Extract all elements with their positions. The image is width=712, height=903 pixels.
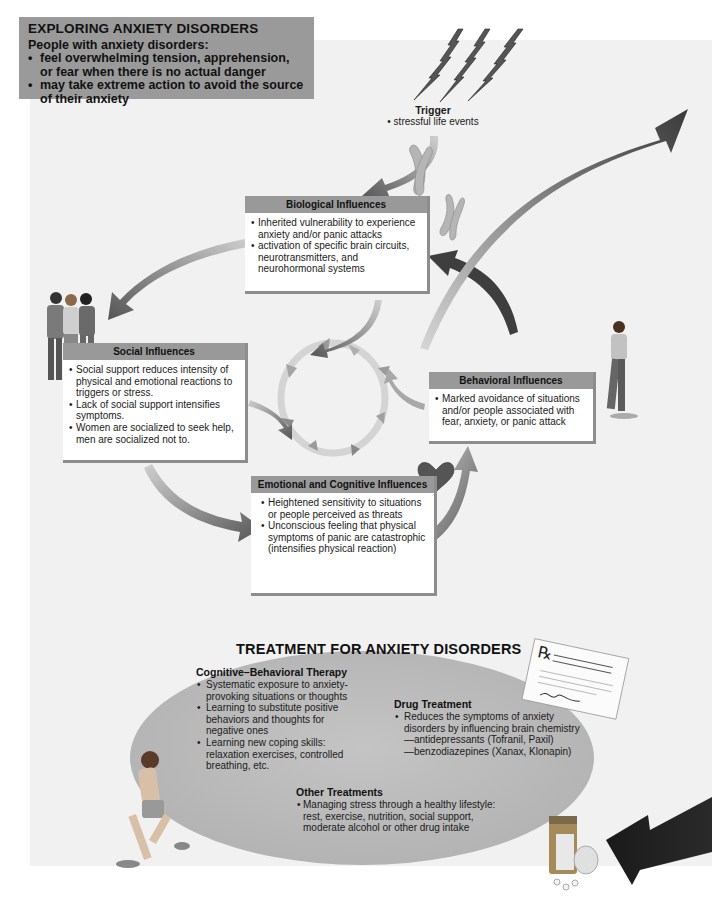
cbt-item: Learning to substitute positive behavior… <box>196 702 364 737</box>
lightning-bolt-icon <box>414 29 523 102</box>
emotional-item: Unconscious feeling that physical sympto… <box>261 520 428 555</box>
emotional-cognitive-influences-box: Emotional and Cognitive Influences Heigh… <box>251 476 437 596</box>
treatment-title: TREATMENT FOR ANXIETY DISORDERS <box>236 641 521 657</box>
pill-bottle-icon <box>549 816 598 890</box>
intro-subtitle: People with anxiety disorders: <box>28 38 305 52</box>
intro-list: feel overwhelming tension, apprehension,… <box>28 52 305 106</box>
cbt-item: Systematic exposure to anxiety-provoking… <box>196 679 364 702</box>
behavioral-influences-box: Behavioral Influences Marked avoidance o… <box>429 372 596 444</box>
emotional-cognitive-influences-title: Emotional and Cognitive Influences <box>251 476 434 493</box>
social-influences-box: Social Influences Social support reduces… <box>63 343 248 463</box>
big-outgoing-arrow <box>420 109 688 350</box>
social-influences-title: Social Influences <box>63 343 245 360</box>
cbt-title: Cognitive–Behavioral Therapy <box>196 666 364 679</box>
drug-treatment-title: Drug Treatment <box>394 698 594 711</box>
intro-item: feel overwhelming tension, apprehension,… <box>28 52 305 79</box>
walking-woman-icon <box>607 321 638 419</box>
other-treatments-section: Other Treatments Managing stress through… <box>296 786 516 834</box>
drug-item: Reduces the symptoms of anxiety disorder… <box>394 711 594 734</box>
drug-subitem: —benzodiazepines (Xanax, Klonapin) <box>394 746 594 758</box>
behavioral-item: Marked avoidance of situations and/or pe… <box>435 393 587 428</box>
social-item: Social support reduces intensity of phys… <box>69 364 239 399</box>
biological-influences-box: Biological Influences Inherited vulnerab… <box>245 196 430 294</box>
trigger-title: Trigger <box>363 104 503 116</box>
other-treatments-title: Other Treatments <box>296 786 516 799</box>
biological-to-social-arrow <box>108 238 252 320</box>
biological-influences-title: Biological Influences <box>245 196 427 213</box>
social-item: Women are socialized to seek help, men a… <box>69 422 239 445</box>
biological-item: activation of specific brain circuits, n… <box>251 240 421 275</box>
other-item: Managing stress through a healthy lifest… <box>296 799 516 834</box>
treatment-incoming-arrow <box>606 797 712 885</box>
intro-item: may take extreme action to avoid the sou… <box>28 79 305 106</box>
social-item: Lack of social support intensifies sympt… <box>69 399 239 422</box>
biological-item: Inherited vulnerability to experience an… <box>251 217 421 240</box>
trigger-label: Trigger • stressful life events <box>363 104 503 128</box>
social-to-emotional-arrow <box>144 464 262 542</box>
behavioral-influences-title: Behavioral Influences <box>429 372 593 389</box>
cbt-section: Cognitive–Behavioral Therapy Systematic … <box>196 666 364 772</box>
intro-title: EXPLORING ANXIETY DISORDERS <box>28 21 305 36</box>
drug-subitem: —antidepressants (Tofranil, Paxil) <box>394 734 594 746</box>
drug-treatment-section: Drug Treatment Reduces the symptoms of a… <box>394 698 594 757</box>
cbt-item: Learning new coping skills: relaxation e… <box>196 737 364 772</box>
trigger-arrow <box>362 136 438 198</box>
emotional-item: Heightened sensitivity to situations or … <box>261 497 428 520</box>
cycle-circle-arrows <box>248 300 425 456</box>
intro-box: EXPLORING ANXIETY DISORDERS People with … <box>19 17 314 99</box>
trigger-text: • stressful life events <box>363 116 503 128</box>
